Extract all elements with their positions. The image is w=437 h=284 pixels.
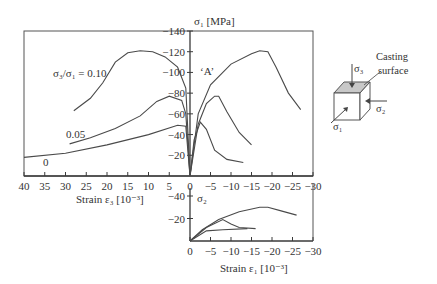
curve <box>190 229 247 241</box>
lower-ticks: 0−5−10−15−20−25−30−20−40 <box>168 190 322 257</box>
annotation-A: ‘A’ <box>200 65 214 77</box>
y-tick-label: −120 <box>162 46 185 58</box>
x-tick-label: −10 <box>222 180 240 192</box>
main-plot: 4035302520151050−5−10−15−20−25−30−20−40−… <box>19 25 323 192</box>
cube-sigma3-label: σ₃ <box>354 63 364 74</box>
stress-strain-chart: 4035302520151050−5−10−15−20−25−30−20−40−… <box>0 0 437 284</box>
cube-sigma1-label: σ₁ <box>333 121 342 132</box>
y-tick-label: −40 <box>168 129 186 141</box>
y-tick-label: −20 <box>168 149 186 161</box>
y-tick-label: −20 <box>168 213 186 225</box>
x-tick-label: −25 <box>284 180 302 192</box>
specimen-cube-diagram: σ₃ Casting surface σ₂ σ₁ <box>331 51 409 132</box>
x-tick-label: 25 <box>81 180 93 192</box>
sigma1-axis-label: σ₁ [MPa] <box>194 15 235 27</box>
x-tick-label: 10 <box>143 180 155 192</box>
x-tick-label: −20 <box>263 180 281 192</box>
x-tick-label: −5 <box>205 245 217 257</box>
curve <box>190 122 243 176</box>
y-tick-label: −40 <box>168 190 186 202</box>
y-tick-label: −100 <box>162 66 185 78</box>
ratio-label-0: 0 <box>43 156 49 168</box>
curve <box>24 125 190 176</box>
cube-sigma2-label: σ₂ <box>376 103 386 114</box>
lower-plot: 0−5−10−15−20−25−30−20−40 <box>168 183 322 257</box>
strain3-axis-label: Strain ε₃ [10⁻³] <box>76 193 144 205</box>
x-tick-label: 35 <box>39 180 51 192</box>
x-tick-label: 30 <box>60 180 72 192</box>
y-tick-label: −140 <box>162 25 185 37</box>
x-tick-label: −20 <box>263 245 281 257</box>
x-tick-label: −30 <box>304 245 322 257</box>
casting-label-2: surface <box>378 65 409 76</box>
ratio-label-005: 0.05 <box>66 128 86 140</box>
curve <box>190 207 297 241</box>
x-tick-label: −5 <box>205 180 217 192</box>
sigma2-axis-label: σ₂ <box>197 192 207 204</box>
y-tick-label: −60 <box>168 108 186 120</box>
main-ticks: 4035302520151050−5−10−15−20−25−30−20−40−… <box>19 25 323 192</box>
x-tick-label: 15 <box>122 180 134 192</box>
casting-label-1: Casting <box>376 51 409 62</box>
x-tick-label: −15 <box>243 245 261 257</box>
x-tick-label: −10 <box>222 245 240 257</box>
strain1-axis-label: Strain ε₁ [10⁻³] <box>220 262 288 274</box>
lower-curves <box>190 207 297 241</box>
x-tick-label: −25 <box>284 245 302 257</box>
curve <box>190 96 252 176</box>
y-tick-label: −80 <box>168 87 186 99</box>
x-tick-label: 40 <box>19 180 31 192</box>
x-tick-label: 20 <box>102 180 114 192</box>
x-tick-label: 0 <box>187 245 193 257</box>
x-tick-label: −15 <box>243 180 261 192</box>
ratio-label-010: σ₃/σ₁ = 0.10 <box>53 67 107 79</box>
